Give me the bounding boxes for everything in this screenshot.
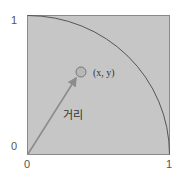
x-max-label: 1	[166, 158, 172, 170]
quarter-circle-diagram: (x, y) 거리 1 0 0 1	[0, 0, 182, 177]
point-label: (x, y)	[93, 67, 115, 79]
distance-label: 거리	[63, 109, 83, 122]
x-min-label: 0	[24, 158, 30, 170]
unit-square	[28, 16, 170, 155]
y-min-label: 0	[11, 140, 17, 152]
point-marker	[76, 67, 86, 77]
y-max-label: 1	[11, 14, 17, 26]
